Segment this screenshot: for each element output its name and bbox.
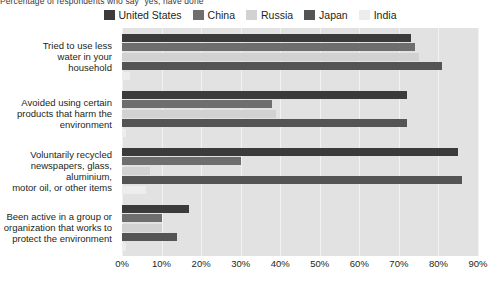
bar-china[interactable] [122,157,241,165]
legend-label: United States [119,9,182,21]
category-label-line: Avoided using certain [0,97,112,108]
legend-swatch-icon [359,10,370,20]
category-label-line: aluminium, [0,171,112,182]
bar-united-states[interactable] [122,148,458,156]
bar-india[interactable] [122,129,126,137]
x-axis-tick-label: 50% [310,258,329,269]
bar-china[interactable] [122,43,415,51]
category-label-line: motor oil, or other items [0,182,112,193]
bar-russia[interactable] [122,167,150,175]
x-axis-tick-label: 30% [231,258,250,269]
category-label-line: household [0,62,112,73]
legend-swatch-icon [304,10,315,20]
bar-russia[interactable] [122,53,419,61]
bar-united-states[interactable] [122,205,189,213]
bar-japan[interactable] [122,176,462,184]
legend-swatch-icon [246,10,257,20]
bar-russia[interactable] [122,224,162,232]
bar-group [122,28,478,85]
x-axis-tick-label: 40% [271,258,290,269]
category-label: Tried to use lesswater in yourhousehold [0,40,112,73]
chart-subtitle: Percentage of respondents who say "yes, … [0,0,207,6]
category-label-line: protect the environment [0,233,112,244]
category-label: Been active in a group ororganization th… [0,211,112,244]
x-axis-tick-label: 10% [152,258,171,269]
x-axis-tick-label: 0% [115,258,129,269]
legend-united-states[interactable]: United States [104,9,182,21]
x-axis: 0%10%20%30%40%50%60%70%80%90% [122,258,478,274]
bar-russia[interactable] [122,110,276,118]
bar-group [122,199,478,256]
category-label-line: organization that works to [0,222,112,233]
legend-label: Russia [261,9,293,21]
bar-group [122,85,478,142]
legend-swatch-icon [104,10,115,20]
gridline [478,28,479,256]
category-label-line: Tried to use less [0,40,112,51]
legend-label: Japan [319,9,348,21]
bar-china[interactable] [122,214,162,222]
legend-label: India [374,9,397,21]
category-label: Avoided using certainproducts that harm … [0,97,112,130]
bar-japan[interactable] [122,233,177,241]
category-label-line: environment [0,119,112,130]
legend-japan[interactable]: Japan [304,9,348,21]
bar-united-states[interactable] [122,91,407,99]
legend-russia[interactable]: Russia [246,9,293,21]
legend-swatch-icon [193,10,204,20]
plot-area [122,28,478,256]
category-label-line: newspapers, glass, [0,160,112,171]
x-axis-tick-label: 80% [429,258,448,269]
chart-legend: United StatesChinaRussiaJapanIndia [0,9,500,21]
category-label-line: water in your [0,51,112,62]
legend-label: China [208,9,235,21]
bar-china[interactable] [122,100,272,108]
bar-united-states[interactable] [122,34,411,42]
bar-japan[interactable] [122,119,407,127]
x-axis-tick-label: 20% [192,258,211,269]
chart-container: Percentage of respondents who say "yes, … [0,0,500,284]
category-label-line: Voluntarily recycled [0,149,112,160]
legend-china[interactable]: China [193,9,235,21]
category-label-line: Been active in a group or [0,211,112,222]
bar-japan[interactable] [122,62,442,70]
x-axis-tick-label: 60% [350,258,369,269]
bar-groups [122,28,478,256]
legend-india[interactable]: India [359,9,397,21]
x-axis-tick-label: 90% [468,258,487,269]
bar-group [122,142,478,199]
category-label-line: products that harm the [0,108,112,119]
category-label: Voluntarily recyclednewspapers, glass,al… [0,149,112,193]
x-axis-tick-label: 70% [389,258,408,269]
bar-india[interactable] [122,72,130,80]
category-labels: Tried to use lesswater in yourhouseholdA… [0,28,118,256]
bar-india[interactable] [122,186,146,194]
bar-india[interactable] [122,243,126,251]
